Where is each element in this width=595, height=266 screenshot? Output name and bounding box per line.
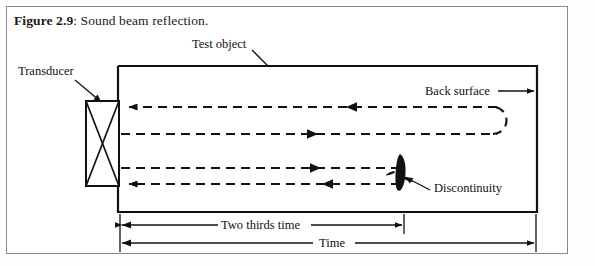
beam-path-row-2 [121,129,497,139]
back-surface-turn [493,107,507,134]
dimension-two-thirds-time: Two thirds time [122,218,402,232]
test-object-leader [252,50,268,66]
dimension-time: Time [122,236,534,250]
transducer-block [86,101,119,186]
beam-path-row-4 [129,179,400,189]
two-thirds-time-label: Two thirds time [221,218,300,232]
discontinuity-leader [405,177,430,190]
discontinuity-flaw [386,154,413,191]
test-object-label: Test object [192,37,247,51]
back-surface-label: Back surface [425,84,490,98]
transducer-label: Transducer [18,64,75,78]
transducer-leader [75,80,102,102]
discontinuity-label: Discontinuity [434,181,503,195]
sound-beam-diagram: Transducer Test object Back surface Disc… [0,0,595,266]
beam-path-row-1 [129,102,497,112]
time-label: Time [319,236,345,250]
beam-path-row-3 [121,163,398,173]
figure-container: Figure 2.9: Sound beam reflection. [0,0,595,266]
